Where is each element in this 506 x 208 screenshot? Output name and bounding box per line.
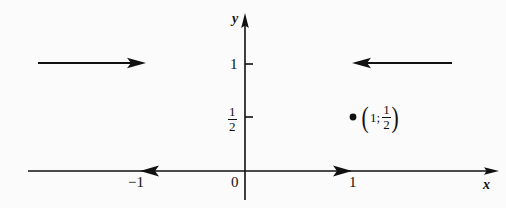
point-coordinate-label: ( 1 ; 1 2 ) [360, 103, 400, 132]
point-y-denominator: 2 [382, 118, 391, 132]
paren-close: ) [391, 105, 398, 130]
y-tick-fraction: 1 2 [228, 105, 237, 134]
point-marker-dot [350, 114, 357, 121]
function-graph-figure: y x 0 −1 1 1 1 2 ( 1 ; 1 2 ) [0, 0, 506, 208]
x-tick-label-one: 1 [349, 175, 357, 190]
x-axis-label: x [483, 178, 490, 192]
origin-label: 0 [231, 175, 239, 190]
y-tick-fraction-denominator: 2 [228, 120, 237, 134]
point-x-value: 1 [369, 110, 377, 126]
graph-canvas [0, 0, 506, 208]
y-axis-label: y [232, 12, 238, 26]
point-y-fraction: 1 2 [382, 103, 391, 132]
y-tick-label-one-half: 1 2 [228, 105, 237, 134]
point-y-numerator: 1 [382, 103, 391, 118]
paren-open: ( [361, 105, 368, 130]
y-tick-label-one: 1 [230, 57, 238, 72]
x-tick-label-minus-one: −1 [128, 175, 144, 190]
y-tick-fraction-numerator: 1 [228, 105, 237, 120]
